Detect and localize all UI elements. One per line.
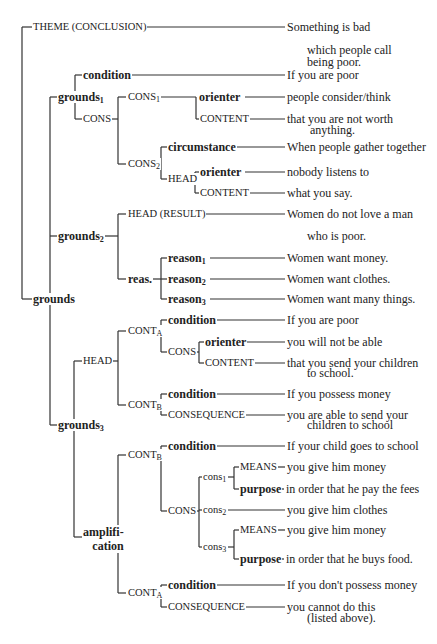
text-amp-cons1-means: you give him money <box>286 461 386 474</box>
node-amp-cons: CONS <box>167 505 197 517</box>
text-theme: Something is bad <box>286 21 370 34</box>
node-contA-content: CONTENT <box>204 357 255 369</box>
node-amp-cons1-purpose: purpose <box>239 483 282 495</box>
node-reason2: reason2 <box>167 273 207 285</box>
text-contA-condition: If you are poor <box>286 314 359 327</box>
node-contA-cons: CONS <box>167 346 197 358</box>
node-cons2-head: HEAD <box>167 173 198 185</box>
node-cons2-head-orienter: orienter <box>199 166 242 178</box>
text-cons2-content: what you say. <box>286 187 353 200</box>
text-head-result: Women do not love a man <box>286 208 413 221</box>
text-amp-contA-consequence-cont: (listed above). <box>307 612 376 625</box>
node-amplification: amplifi-cation <box>82 525 125 553</box>
node-circumstance: circumstance <box>167 141 237 153</box>
text-amp-cons3-purpose: in order that he buys food. <box>285 553 413 566</box>
node-grounds: grounds <box>32 293 76 305</box>
node-amp-cons3-purpose: purpose <box>239 553 282 565</box>
node-reas: reas. <box>127 273 153 285</box>
node-grounds3-head: HEAD <box>82 355 113 367</box>
node-contB-condition: condition <box>167 388 217 400</box>
text-reason2: Women want clothes. <box>286 273 390 286</box>
node-cons1-content: CONTENT <box>199 113 250 125</box>
text-g1-condition: If you are poor <box>286 69 359 82</box>
node-cons2-head-content: CONTENT <box>199 187 250 199</box>
node-amp-contA: CONTA <box>127 587 163 599</box>
node-cons2: CONS2 <box>127 158 161 170</box>
text-cons1-orienter: people consider/think <box>286 91 391 104</box>
node-reason1: reason1 <box>167 252 207 264</box>
node-grounds1: grounds1 <box>57 91 105 103</box>
node-grounds1-cons: CONS <box>82 113 112 125</box>
node-grounds1-condition: condition <box>82 69 132 81</box>
text-cons1-content-cont: anything. <box>310 124 355 137</box>
node-amp-cons1-means: MEANS <box>239 461 278 473</box>
text-reason3: Women want many things. <box>286 293 415 306</box>
node-amp-cons3-means: MEANS <box>239 524 278 536</box>
node-grounds3: grounds3 <box>57 419 105 431</box>
node-amp-contA-condition: condition <box>167 579 217 591</box>
text-contB-consequence-cont: children to school <box>307 419 393 432</box>
node-head-contB: CONTB <box>127 399 163 411</box>
node-amp-contA-consequence: CONSEQUENCE <box>167 601 246 613</box>
text-reason1: Women want money. <box>286 252 388 265</box>
text-cons2-orienter: nobody listens to <box>286 166 369 179</box>
text-head-result-cont: who is poor. <box>307 230 366 243</box>
node-contB-consequence: CONSEQUENCE <box>167 409 246 421</box>
text-contA-content-cont: to school. <box>307 367 354 380</box>
text-circumstance: When people gather together <box>286 141 426 154</box>
node-cons1-orienter: orienter <box>198 91 241 103</box>
node-contA-orienter: orienter <box>204 336 247 348</box>
node-cons1: CONS1 <box>127 91 161 103</box>
node-head-contA: CONTA <box>127 325 163 337</box>
text-amp-cons2: you give him clothes <box>286 504 387 517</box>
node-amp-cons1: cons1 <box>202 471 227 483</box>
node-amp-cons3: cons3 <box>202 541 227 553</box>
node-theme: THEME (CONCLUSION) <box>32 21 147 33</box>
node-amp-contB: CONTB <box>127 449 163 461</box>
node-amp-contB-condition: condition <box>167 440 217 452</box>
node-head-result: HEAD (RESULT) <box>127 208 206 220</box>
node-reason3: reason3 <box>167 293 207 305</box>
text-amp-cons3-means: you give him money <box>286 524 386 537</box>
text-amp-condition: If your child goes to school <box>286 440 419 453</box>
node-grounds2: grounds2 <box>57 230 105 242</box>
node-contA-condition: condition <box>167 314 217 326</box>
text-amp-cons1-purpose: in order that he pay the fees <box>285 483 419 496</box>
text-contA-orienter: you will not be able <box>286 336 382 349</box>
text-contB-condition: If you possess money <box>286 388 391 401</box>
text-amp-contA-condition: If you don't possess money <box>286 579 417 592</box>
node-amp-cons2: cons2 <box>202 504 227 516</box>
